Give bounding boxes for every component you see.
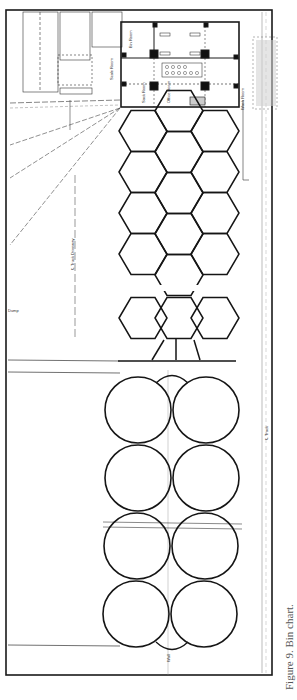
label-office-room: Office Room — [166, 80, 171, 103]
annex-structures — [10, 12, 122, 108]
label-truck-driveway: ℄ Truck Driveway — [70, 239, 75, 271]
round-tanks — [103, 376, 242, 650]
label-motor-room: Wash Room — [240, 87, 245, 110]
bin-chart-drawing: Bin Room Sack Room Office Room Scale Roo… — [0, 0, 297, 700]
label-sack-room: Sack Room — [141, 82, 146, 103]
label-bin-room: Bin Room — [128, 30, 133, 48]
hex-bins — [115, 91, 245, 362]
label-track: ℄ Track — [264, 426, 269, 441]
label-dump: Dump — [8, 308, 19, 313]
label-wall: Wall — [166, 654, 171, 662]
figure-caption: Figure 9. Bin chart. — [283, 604, 295, 690]
label-scale-room: Scale Room — [109, 58, 114, 80]
main-building — [121, 22, 239, 107]
diagonal-lines — [10, 100, 120, 340]
section-lines — [8, 360, 168, 675]
